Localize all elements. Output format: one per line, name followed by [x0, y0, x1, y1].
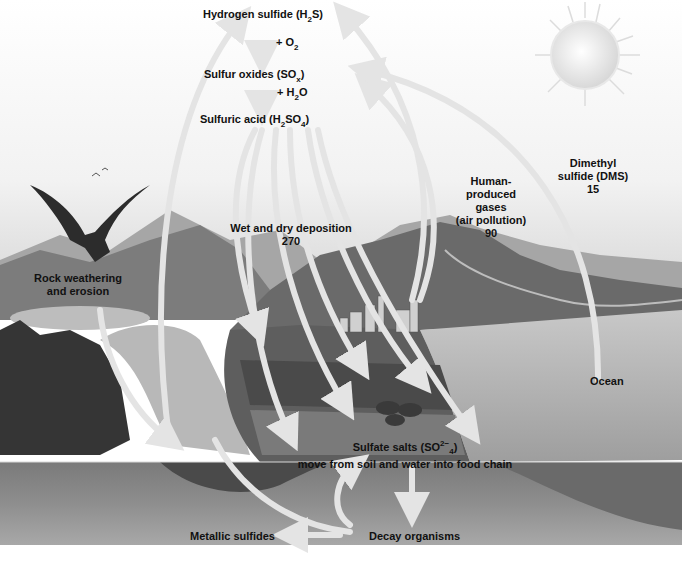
label-human-produced-gases: Human- produced gases (air pollution) 90 — [446, 175, 536, 240]
label-decay-organisms: Decay organisms — [369, 530, 460, 543]
label-plus-h2o: + H2O — [277, 86, 307, 103]
label-sulfuric-acid: Sulfuric acid (H2SO4) — [200, 113, 309, 130]
label-wet-dry-deposition: Wet and dry deposition 270 — [226, 222, 356, 248]
label-ocean: Ocean — [590, 375, 624, 388]
label-plus-o2: + O2 — [276, 36, 299, 53]
label-sulfate-salts: Sulfate salts (SO2−4) move from soil and… — [290, 437, 520, 471]
label-rock-weathering: Rock weathering and erosion — [28, 272, 128, 298]
label-hydrogen-sulfide: Hydrogen sulfide (H2S) — [198, 8, 328, 25]
label-sulfur-oxides: Sulfur oxides (SOx) — [204, 68, 304, 85]
label-metallic-sulfides: Metallic sulfides — [190, 530, 275, 543]
label-dimethyl-sulfide: Dimethyl sulfide (DMS) 15 — [548, 157, 638, 196]
